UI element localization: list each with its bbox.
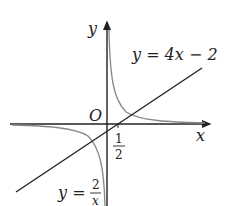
hyperbola-branch-right	[109, 30, 205, 123]
origin-label: O	[89, 106, 102, 125]
tick-denominator: 2	[115, 148, 123, 162]
tick-numerator: 1	[115, 132, 123, 146]
graph-figure: y x O 1 2 y = 4x − 2 y = 2 x	[0, 0, 230, 206]
hyperbola-label-numerator: 2	[92, 178, 100, 192]
hyperbola-label-prefix: y =	[57, 183, 86, 202]
hyperbola-label-denominator: x	[92, 194, 99, 206]
y-axis-label: y	[87, 19, 98, 38]
x-axis-label: x	[196, 126, 205, 145]
line-y-4x-2	[16, 68, 202, 192]
line-label: y = 4x − 2	[131, 45, 218, 64]
